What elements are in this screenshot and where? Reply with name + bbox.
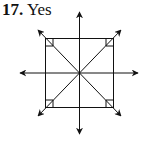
symmetry-figure bbox=[0, 0, 145, 147]
